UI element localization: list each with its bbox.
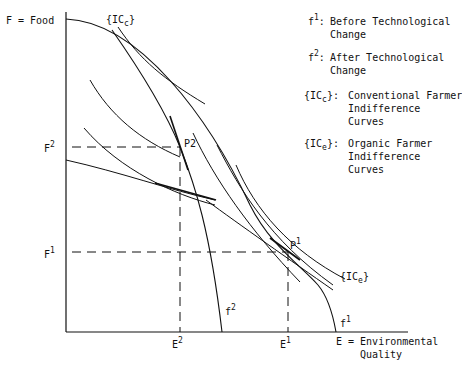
ic-organic-curve-2 [206, 200, 333, 290]
point-p2-label: P2 [184, 138, 196, 150]
x-axis-label-line2: Quality [360, 349, 402, 361]
legend-key-f1: f1: [308, 16, 325, 28]
tick-f1: F1 [44, 249, 55, 261]
tick-e2: E2 [172, 339, 183, 351]
y-axis-label: F = Food [6, 15, 54, 27]
ic-organic-curve-4 [236, 165, 345, 279]
legend-desc-ice-line2: Indifference [348, 151, 420, 163]
legend-desc-f2-line1: After Technological [330, 52, 444, 64]
curve-f2-label: f2 [225, 306, 236, 318]
legend-desc-icc-line3: Curves [348, 116, 384, 128]
legend-desc-ice-line1: Organic Farmer [348, 138, 432, 150]
x-axis-label-line1: E = Environmental [336, 336, 438, 348]
legend-desc-ice-line3: Curves [348, 164, 384, 176]
ic-organic-curve-1 [193, 133, 300, 282]
legend-desc-icc-line1: Conventional Farmer [348, 90, 462, 102]
f2-frontier-curve [112, 30, 222, 332]
tick-e1: E1 [280, 339, 291, 351]
curve-f1-label: f1 [340, 318, 351, 330]
ic-organic-curve-3 [217, 145, 333, 285]
curve-ice-label: {ICe} [340, 271, 369, 284]
legend-key-f2: f2: [308, 52, 325, 64]
legend-key-ice: {ICe}: [304, 138, 339, 151]
legend-key-icc: {ICc}: [304, 90, 339, 103]
legend-desc-f1-line1: Before Technological [330, 16, 450, 28]
legend-desc-f1-line2: Change [330, 29, 366, 41]
curve-icc-label: {ICc} [106, 14, 135, 27]
tick-f2: F2 [44, 143, 55, 155]
ic-conventional-curve-1 [118, 27, 205, 104]
legend-desc-icc-line2: Indifference [348, 103, 420, 115]
f1-frontier-curve [66, 19, 336, 332]
legend-desc-f2-line2: Change [330, 65, 366, 77]
point-p1-label: P1 [290, 240, 301, 252]
price-line-flat [155, 183, 216, 200]
